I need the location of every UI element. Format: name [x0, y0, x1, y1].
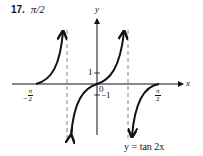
tick-label-neg-one: −1: [101, 90, 111, 100]
curve-branch-left: [36, 32, 63, 84]
tick-label-neg-pi-over-2: −π2: [23, 88, 33, 103]
y-axis-label: y: [95, 4, 99, 14]
tick-label-one: 1: [88, 67, 93, 77]
tan-graph: [0, 0, 203, 156]
function-caption: y = tan 2x: [124, 141, 164, 152]
x-axis-label: x: [186, 78, 190, 88]
tick-label-pi-over-2: π2: [155, 88, 161, 103]
